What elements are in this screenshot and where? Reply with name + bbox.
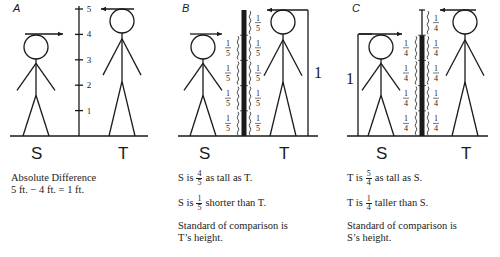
- brace-left-c-2: [415, 61, 417, 84]
- caption-c-diff-prefix: T is: [347, 197, 363, 209]
- fraction-right-b-1-num: 1: [256, 39, 260, 48]
- figure-t-a-head: [110, 9, 134, 33]
- figure-s-b-leg-right: [203, 95, 216, 136]
- caption-c-ratio: T is 5 4 as tall as S.: [347, 168, 457, 188]
- fraction-right-b-4-num: 1: [256, 114, 260, 123]
- caption-c-standard: Standard of comparison is: [347, 220, 457, 232]
- figure-t-a-arm-left: [103, 39, 122, 75]
- fraction-left-c-4-num: 1: [404, 114, 408, 123]
- fraction-left-b-1-den: 5: [226, 49, 230, 58]
- fraction-right-c-2-num: 1: [434, 64, 438, 73]
- scale-tick-label-4: 4: [87, 29, 92, 39]
- fraction-left-b-4-num: 1: [226, 114, 230, 123]
- fraction-left-c-1-den: 4: [404, 49, 408, 58]
- fraction-right-c-0-den: 4: [434, 24, 438, 33]
- fraction-right-b-0-den: 5: [256, 24, 260, 33]
- fraction-left-b-2-num: 1: [226, 64, 230, 73]
- caption-c-standard-ref: S’s height.: [347, 232, 457, 244]
- figure-s-a-leg-left: [23, 95, 36, 136]
- brace-left-b-1: [237, 36, 239, 59]
- figure-s-a-arm-right: [36, 63, 55, 90]
- figure-t-c-leg-left: [452, 82, 465, 136]
- caption-b-standard: Standard of comparison is: [178, 220, 288, 232]
- figure-t-b-leg-right: [283, 82, 296, 136]
- figure-t-a-leg-left: [109, 81, 122, 136]
- figure-s-c-leg-left: [368, 95, 381, 136]
- scale-tick-label-2: 2: [87, 80, 92, 90]
- caption-b: S is 4 5 as tall as T. S is 1 5 shorter …: [178, 168, 288, 244]
- fraction-right-c-1-den: 4: [434, 49, 438, 58]
- caption-b-ratio-prefix: S is: [178, 172, 193, 184]
- fraction-right-c-1-num: 1: [434, 39, 438, 48]
- height-arrow-s-a-head: [58, 32, 63, 36]
- fraction-right-c-4-num: 1: [434, 114, 438, 123]
- fraction-five-fourths: 5 4: [366, 170, 372, 187]
- fraction-left-b-2-den: 5: [226, 74, 230, 83]
- brace-left-c-4: [415, 112, 417, 135]
- brace-right-c-4: [427, 112, 429, 135]
- height-arrow-s-c-head: [397, 32, 402, 36]
- figure-t-c-arm-right: [465, 40, 484, 76]
- caption-b-ratio: S is 4 5 as tall as T.: [178, 168, 288, 188]
- caption-c-ratio-prefix: T is: [347, 172, 363, 184]
- fraction-one-fifth: 1 5: [196, 195, 202, 212]
- scale-tick-label-5: 5: [87, 4, 92, 14]
- brace-right-b-3: [249, 87, 251, 110]
- brace-left-b-4: [237, 112, 239, 135]
- caption-a-title: Absolute Difference: [11, 172, 96, 184]
- panel-label-b: B: [182, 2, 189, 14]
- fraction-right-b-3-num: 1: [256, 89, 260, 98]
- figure-t-c-head: [453, 10, 477, 34]
- brace-right-c-0: [427, 11, 429, 34]
- figure-t-b-arm-left: [264, 40, 283, 76]
- fraction-left-b-1-num: 1: [226, 39, 230, 48]
- fraction-right-b-0-num: 1: [256, 14, 260, 23]
- figure-s-c-leg-right: [381, 95, 394, 136]
- figure-s-b-leg-left: [190, 95, 203, 136]
- caption-c-diff-suffix: taller than S.: [375, 197, 428, 209]
- height-arrow-t-b-head: [267, 8, 272, 12]
- panel-label-c: C: [352, 2, 360, 14]
- caption-b-ratio-suffix: as tall as T.: [205, 172, 252, 184]
- fraction-one-fourth: 1 4: [366, 195, 372, 212]
- brace-right-c-1: [427, 36, 429, 59]
- fraction-left-c-2-den: 4: [404, 74, 408, 83]
- fraction-right-c-3-den: 4: [434, 99, 438, 108]
- fraction-right-c-2-den: 4: [434, 74, 438, 83]
- figure-t-c-arm-left: [446, 40, 465, 76]
- fraction-left-c-3-num: 1: [404, 89, 408, 98]
- brace-right-c-2: [427, 61, 429, 84]
- fraction-right-c-4-den: 4: [434, 124, 438, 133]
- frac-den: 4: [367, 179, 371, 187]
- brace-left-c-3: [415, 87, 417, 110]
- caption-a: Absolute Difference 5 ft. − 4 ft. = 1 ft…: [11, 172, 96, 196]
- figure-s-b-arm-left: [184, 63, 203, 90]
- fraction-right-b-2-num: 1: [256, 64, 260, 73]
- scale-tick-label-1: 1: [87, 106, 92, 116]
- figure-t-label-b: T: [279, 144, 289, 164]
- fraction-left-c-4-den: 4: [404, 124, 408, 133]
- brace-right-c-3: [427, 87, 429, 110]
- caption-c-ratio-suffix: as tall as S.: [375, 172, 422, 184]
- frac-den: 5: [197, 204, 201, 212]
- figure-s-b-arm-right: [203, 63, 222, 90]
- caption-b-standard-ref: T’s height.: [178, 232, 288, 244]
- fraction-four-fifths: 4 5: [196, 170, 202, 187]
- caption-b-difference: S is 1 5 shorter than T.: [178, 192, 288, 214]
- figure-t-b-head: [271, 10, 295, 34]
- figure-s-a-leg-right: [36, 95, 49, 136]
- figure-s-label-b: S: [199, 144, 210, 164]
- caption-c: T is 5 4 as tall as S. T is 1 4 taller t…: [347, 168, 457, 244]
- brace-left-b-2: [237, 61, 239, 84]
- scale-tick-label-3: 3: [87, 55, 92, 65]
- fraction-right-b-4-den: 5: [256, 124, 260, 133]
- height-arrow-t-a-head: [101, 7, 106, 11]
- figure-t-label-c: T: [461, 144, 471, 164]
- figure-s-label-a: S: [31, 144, 42, 164]
- figure-t-b-leg-left: [270, 82, 283, 136]
- figure-t-label-a: T: [118, 144, 128, 164]
- fraction-left-b-4-den: 5: [226, 124, 230, 133]
- height-arrow-t-c-head: [440, 8, 445, 12]
- caption-b-diff-suffix: shorter than T.: [205, 197, 266, 209]
- figure-s-c-arm-left: [362, 63, 381, 90]
